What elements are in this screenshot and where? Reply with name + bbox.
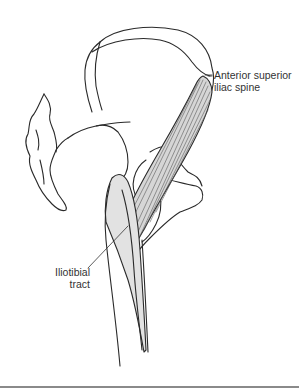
label-anterior-superior-iliac-spine: Anterior superior iliac spine (214, 69, 292, 93)
sacrum-outline (26, 94, 68, 211)
anatomy-diagram (0, 0, 299, 389)
ilium-inner-line (95, 42, 102, 110)
tensor-fasciae-latae-muscle (126, 76, 212, 240)
sacrum-inner (44, 94, 57, 152)
label-iliotibial-tract: Iliotibial tract (50, 266, 90, 290)
label-asis-line2: iliac spine (214, 81, 292, 93)
label-itt-line1: Iliotibial (50, 266, 90, 278)
bottom-divider (0, 386, 299, 388)
label-asis-line1: Anterior superior (214, 69, 292, 81)
ilium-lower-edge (96, 122, 130, 126)
sacrum-detail (36, 130, 44, 184)
hip-illustration (0, 0, 299, 389)
label-itt-line2: tract (50, 278, 90, 290)
